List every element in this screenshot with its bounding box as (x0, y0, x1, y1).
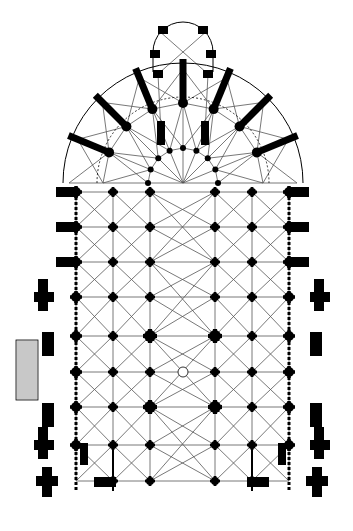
pier-shaft (283, 334, 295, 338)
radiating-buttress (136, 68, 153, 109)
pier-shaft (143, 405, 157, 409)
rib (183, 158, 208, 183)
transept-buttress (38, 279, 48, 311)
radiating-buttress (95, 95, 126, 126)
pier-shaft (210, 371, 220, 374)
rib (170, 103, 183, 151)
rib (152, 109, 183, 148)
rib (103, 170, 151, 183)
transept-buttress (314, 427, 324, 459)
pier-shaft (108, 406, 118, 409)
hemicycle-pier (145, 180, 151, 186)
portal-pier (42, 332, 54, 356)
chapel-buttress (203, 70, 213, 78)
west-portal-buttress (247, 477, 269, 487)
pier-shaft (210, 191, 220, 194)
pier-shaft (210, 296, 220, 299)
pier-shaft (145, 296, 155, 299)
chapel-buttress (153, 70, 163, 78)
hemicycle-pier (180, 145, 186, 151)
pier-shaft (145, 261, 155, 264)
rib (183, 109, 214, 148)
rib (69, 152, 109, 183)
pier-shaft (143, 334, 157, 338)
pier-shaft (108, 296, 118, 299)
hemicycle-pier (193, 148, 199, 154)
pier-shaft (247, 191, 257, 194)
transept-buttress (314, 279, 324, 311)
west-pier (80, 443, 88, 465)
pier-shaft (283, 295, 295, 299)
pier-shaft (145, 191, 155, 194)
pier-shaft (70, 295, 82, 299)
pier-shaft (208, 405, 222, 409)
pier-shaft (108, 444, 118, 447)
west-portal-buttress (94, 477, 116, 487)
crossing-boss (178, 367, 188, 377)
west-buttress (312, 467, 322, 497)
chapel-buttress (150, 50, 160, 58)
pier-shaft (247, 296, 257, 299)
pier-shaft (247, 335, 257, 338)
pier-shaft (145, 371, 155, 374)
radiating-buttress (240, 95, 271, 126)
pier-shaft (247, 261, 257, 264)
radiating-buttress (68, 136, 109, 153)
pier-shaft (210, 444, 220, 447)
radiating-buttress (257, 136, 298, 153)
pier-shaft (70, 334, 82, 338)
pier-shaft (108, 261, 118, 264)
radiating-buttress (214, 68, 231, 109)
rib (158, 158, 183, 183)
chapel-buttress (206, 50, 216, 58)
pier-shaft (283, 370, 295, 374)
cathedral-floor-plan (0, 0, 353, 531)
portal-pier (310, 332, 322, 356)
hemicycle-pier (155, 155, 161, 161)
side-buttress (56, 257, 78, 267)
pier-shaft (247, 406, 257, 409)
pier-shaft (283, 405, 295, 409)
plan-drawing (0, 0, 353, 531)
rib (183, 103, 196, 151)
pier-shaft (247, 371, 257, 374)
side-buttress (56, 187, 78, 197)
pier-shaft (210, 261, 220, 264)
choir-pier (157, 121, 165, 145)
rib (257, 152, 297, 183)
pier-shaft (247, 226, 257, 229)
hemicycle-pier (212, 167, 218, 173)
portal-pier (42, 403, 54, 427)
side-buttress (56, 222, 78, 232)
portal-pier (310, 403, 322, 427)
chapel-buttress (158, 26, 168, 34)
pier-shaft (108, 335, 118, 338)
pier-shaft (210, 226, 220, 229)
transept-buttress (38, 427, 48, 459)
rib (218, 152, 257, 183)
west-pier (278, 443, 286, 465)
pier-shaft (145, 480, 155, 483)
rib (215, 170, 263, 183)
pier-shaft (208, 334, 222, 338)
pier-shaft (70, 370, 82, 374)
rib (126, 126, 158, 158)
choir-pier (201, 121, 209, 145)
rib (208, 126, 240, 158)
hemicycle-pier (215, 180, 221, 186)
pier-shaft (108, 371, 118, 374)
hemicycle-pier (148, 167, 154, 173)
side-buttress (287, 222, 309, 232)
side-buttress (287, 187, 309, 197)
pier-shaft (145, 444, 155, 447)
pier-shaft (70, 405, 82, 409)
chapel-buttress (198, 26, 208, 34)
annex-block (16, 340, 38, 400)
rib (109, 152, 148, 183)
side-buttress (287, 257, 309, 267)
pier-shaft (108, 226, 118, 229)
west-buttress (42, 467, 52, 497)
pier-shaft (145, 226, 155, 229)
pier-shaft (108, 191, 118, 194)
pier-shaft (210, 480, 220, 483)
